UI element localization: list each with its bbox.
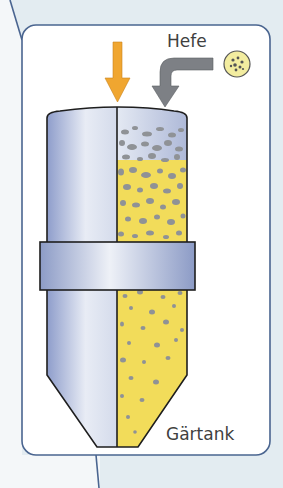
background-lower-wedge xyxy=(22,455,100,488)
background-wedge xyxy=(0,0,22,488)
fermentation-diagram xyxy=(0,0,283,488)
yeast-label: Hefe xyxy=(167,33,207,50)
tank-band xyxy=(40,242,195,290)
yeast-cell-icon xyxy=(224,51,250,77)
fermentation-tank xyxy=(40,107,195,450)
tank-label: Gärtank xyxy=(166,426,234,443)
